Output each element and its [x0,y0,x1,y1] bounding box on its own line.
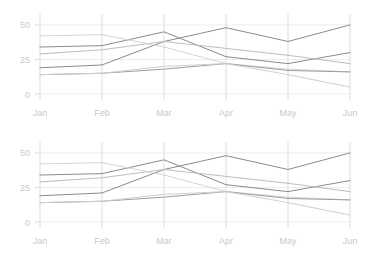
y-axis-tick-label: 0 [25,90,30,100]
line-chart-top: 02550JanFebMarAprMayJun [0,0,376,128]
x-axis-tick-label: May [279,108,297,118]
chart-page: 02550JanFebMarAprMayJun 02550JanFebMarAp… [0,0,376,256]
y-axis-tick-label: 50 [20,20,30,30]
x-axis-tick-label: Apr [219,108,233,118]
y-axis-tick-label: 0 [25,218,30,228]
x-axis-tick-label: Apr [219,236,233,246]
x-axis-tick-label: Jun [343,236,358,246]
x-axis-tick-label: May [279,236,297,246]
line-chart-top-canvas: 02550JanFebMarAprMayJun [0,0,376,128]
x-axis-tick-label: Feb [94,108,110,118]
x-axis-tick-label: Feb [94,236,110,246]
series-line-series-6 [40,64,350,87]
series-line-series-2 [40,160,350,192]
line-chart-bottom-canvas: 02550JanFebMarAprMayJun [0,128,376,256]
x-axis-tick-label: Jan [33,108,48,118]
y-axis-tick-label: 25 [20,55,30,65]
series-line-series-6 [40,192,350,215]
line-chart-bottom: 02550JanFebMarAprMayJun [0,128,376,256]
series-line-series-2 [40,32,350,64]
y-axis-tick-label: 25 [20,183,30,193]
x-axis-tick-label: Jan [33,236,48,246]
x-axis-tick-label: Mar [156,108,172,118]
y-axis-tick-label: 50 [20,148,30,158]
series-line-series-3 [40,41,350,63]
series-line-series-3 [40,169,350,191]
x-axis-tick-label: Mar [156,236,172,246]
x-axis-tick-label: Jun [343,108,358,118]
